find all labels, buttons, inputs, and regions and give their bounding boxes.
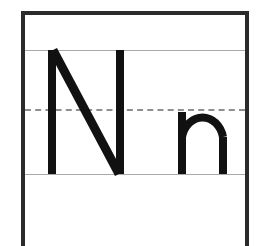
glyph-lowercase-n	[182, 112, 223, 174]
glyph-capital-n	[52, 50, 120, 174]
